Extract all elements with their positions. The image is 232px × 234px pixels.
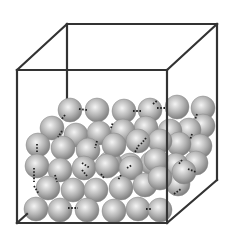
particle-sphere bbox=[95, 154, 119, 178]
particles-front-layer bbox=[24, 166, 172, 223]
particle-sphere bbox=[102, 133, 126, 157]
particle-sphere bbox=[148, 198, 172, 222]
box-top-left-depth-edge bbox=[17, 24, 67, 70]
particle-sphere bbox=[165, 95, 189, 119]
interaction-bond-dotted-line bbox=[79, 109, 87, 110]
particle-sphere bbox=[72, 156, 96, 180]
particle-sphere bbox=[26, 133, 50, 157]
particle-sphere bbox=[75, 198, 99, 222]
particle-box-diagram bbox=[0, 0, 232, 234]
particle-sphere bbox=[85, 98, 109, 122]
particle-sphere bbox=[102, 199, 126, 223]
particle-sphere bbox=[36, 176, 60, 200]
particle-sphere bbox=[48, 198, 72, 222]
particle-sphere bbox=[24, 197, 48, 221]
particle-sphere bbox=[126, 129, 150, 153]
box-bottom-left-depth-edge bbox=[17, 214, 27, 223]
particle-sphere bbox=[172, 160, 196, 184]
particle-sphere bbox=[109, 176, 133, 200]
particle-sphere bbox=[25, 154, 49, 178]
particle-sphere bbox=[148, 166, 172, 190]
particle-sphere bbox=[61, 178, 85, 202]
box-top-right-depth-edge bbox=[167, 24, 217, 70]
particle-sphere bbox=[51, 136, 75, 160]
particle-box-illustration bbox=[0, 0, 232, 234]
